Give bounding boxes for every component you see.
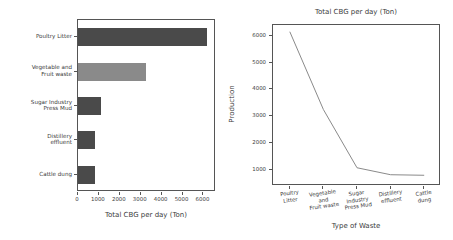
bar-x-tick-mark-1 <box>98 192 99 195</box>
line-x-tick-label-4: Cattledung <box>415 189 433 204</box>
bar-y-tick-mark-4 <box>74 174 77 175</box>
line-chart-x-axis-title: Type of Waste <box>332 222 381 230</box>
line-y-tick-label-0: 1000 <box>252 166 266 172</box>
line-chart-title: Total CBG per day (Ton) <box>315 8 397 16</box>
bar-y-tick-mark-1 <box>74 71 77 72</box>
bar-3 <box>78 131 95 149</box>
bar-x-tick-label-3: 3000 <box>133 196 147 202</box>
bar-y-tick-mark-0 <box>74 36 77 37</box>
line-x-tick-mark-1 <box>322 186 323 189</box>
line-x-tick-label-0: PoultryLitter <box>279 189 299 204</box>
bar-0 <box>78 28 207 46</box>
line-x-tick-label-2: SugarIndustryPress Mud <box>342 188 372 211</box>
bar-category-label-0: Poultry Litter <box>12 33 72 39</box>
bar-x-tick-label-4: 4000 <box>154 196 168 202</box>
bar-x-tick-mark-4 <box>161 192 162 195</box>
line-y-tick-mark-5 <box>269 35 272 36</box>
line-y-tick-mark-0 <box>269 169 272 170</box>
bar-chart-x-axis-title: Total CBG per day (Ton) <box>105 211 187 219</box>
line-y-tick-label-4: 5000 <box>252 59 266 65</box>
bar-x-tick-label-2: 2000 <box>112 196 126 202</box>
line-y-tick-mark-2 <box>269 115 272 116</box>
line-y-tick-label-2: 3000 <box>252 112 266 118</box>
bar-x-tick-label-0: 0 <box>75 196 78 202</box>
figure-container: Type of Waste Poultry LitterVegetable an… <box>0 0 453 240</box>
bar-x-tick-mark-0 <box>77 192 78 195</box>
bar-x-tick-mark-2 <box>119 192 120 195</box>
line-chart-panel: Total CBG per day (Ton) Production 10002… <box>226 0 453 240</box>
bar-1 <box>78 63 146 81</box>
line-x-tick-mark-4 <box>423 186 424 189</box>
bar-x-tick-mark-5 <box>182 192 183 195</box>
bar-x-tick-label-1: 1000 <box>91 196 105 202</box>
line-chart-series-svg <box>273 25 441 186</box>
line-x-tick-label-3: Distilleryeffluent <box>378 188 403 204</box>
bar-chart-plot-area <box>77 19 215 191</box>
line-x-tick-mark-0 <box>289 186 290 189</box>
line-chart-plot-area <box>272 24 440 185</box>
line-y-tick-mark-3 <box>269 88 272 89</box>
bar-2 <box>78 97 101 115</box>
bar-category-label-3: Distilleryeffluent <box>12 133 72 146</box>
bar-category-label-4: Cattle dung <box>12 171 72 177</box>
line-y-tick-mark-4 <box>269 62 272 63</box>
bar-category-label-2: Sugar IndustryPress Mud <box>12 99 72 112</box>
bar-category-label-1: Vegetable andFruit waste <box>12 64 72 77</box>
line-x-tick-label-1: VegetableandFruit waste <box>308 188 340 211</box>
bar-x-tick-mark-6 <box>202 192 203 195</box>
line-y-tick-label-5: 6000 <box>252 32 266 38</box>
bar-4 <box>78 166 95 184</box>
line-chart-y-axis-title: Production <box>228 85 236 122</box>
bar-x-tick-label-5: 5000 <box>175 196 189 202</box>
line-y-tick-mark-1 <box>269 142 272 143</box>
bar-x-tick-label-6: 6000 <box>196 196 210 202</box>
bar-x-tick-mark-3 <box>140 192 141 195</box>
bar-y-tick-mark-3 <box>74 139 77 140</box>
line-y-tick-label-1: 2000 <box>252 139 266 145</box>
line-x-tick-mark-2 <box>356 186 357 189</box>
bar-y-tick-mark-2 <box>74 105 77 106</box>
line-series-path <box>290 32 424 176</box>
line-x-tick-mark-3 <box>390 186 391 189</box>
line-y-tick-label-3: 4000 <box>252 85 266 91</box>
bar-chart-panel: Type of Waste Poultry LitterVegetable an… <box>0 0 227 240</box>
